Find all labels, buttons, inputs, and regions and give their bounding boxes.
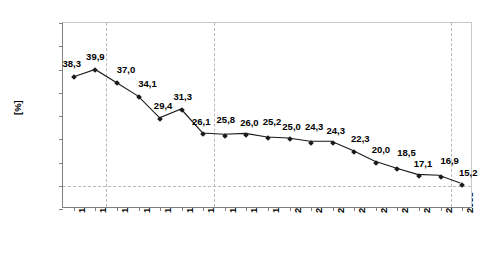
data-point-marker — [71, 75, 77, 81]
data-point-marker — [351, 149, 357, 155]
data-point-label: 16,9 — [440, 156, 459, 166]
data-point-label: 18,5 — [397, 149, 416, 159]
data-point-label: 29,4 — [154, 101, 173, 111]
data-point-marker — [157, 116, 163, 122]
data-point-label: 24,3 — [305, 122, 324, 132]
x-axis-tick-mark — [419, 207, 420, 211]
data-point-label: 37,0 — [117, 66, 136, 76]
x-axis-tick-mark — [139, 207, 140, 211]
data-point-label: 25,2 — [263, 118, 282, 128]
data-point-label: 17,1 — [414, 159, 433, 169]
data-point-label: 22,3 — [351, 134, 370, 144]
line-chart: [%] 10,015,020,025,030,035,040,045,050,0… — [0, 0, 486, 265]
x-axis-tick-mark — [462, 207, 463, 211]
data-point-marker — [395, 167, 401, 173]
data-point-label: 26,0 — [240, 118, 259, 128]
x-axis-tick-mark — [333, 207, 334, 211]
data-point-marker — [373, 160, 379, 166]
data-point-label: 15,2 — [459, 168, 478, 178]
x-axis-tick-mark — [95, 207, 96, 211]
data-point-label: 31,3 — [173, 92, 192, 102]
x-axis-tick-mark — [117, 207, 118, 211]
x-axis-tick-mark — [441, 207, 442, 211]
y-axis-tick-mark — [59, 209, 63, 210]
data-point-label: 38,3 — [63, 60, 82, 70]
x-axis-tick-mark — [246, 207, 247, 211]
x-axis-tick-mark — [203, 207, 204, 211]
data-point-marker — [244, 132, 250, 138]
x-axis-tick-mark — [268, 207, 269, 211]
x-axis-tick-mark — [354, 207, 355, 211]
data-point-layer: 38,339,937,034,129,431,326,125,826,025,2… — [63, 23, 471, 207]
data-point-label: 34,1 — [138, 79, 157, 89]
plot-area: 38,339,937,034,129,431,326,125,826,025,2… — [62, 22, 472, 208]
data-point-marker — [438, 174, 444, 180]
data-point-marker — [287, 136, 293, 142]
x-axis-tick-mark — [311, 207, 312, 211]
data-point-label: 20,0 — [372, 145, 391, 155]
data-point-marker — [308, 140, 314, 146]
data-point-marker — [265, 135, 271, 141]
data-point-marker — [179, 107, 185, 113]
data-point-marker — [459, 182, 465, 188]
x-axis-tick-mark — [376, 207, 377, 211]
data-point-marker — [114, 81, 120, 87]
x-axis-tick-mark — [290, 207, 291, 211]
x-axis-tick-mark — [397, 207, 398, 211]
data-point-label: 25,8 — [217, 115, 236, 125]
data-point-marker — [330, 140, 336, 146]
x-axis-tick-mark — [182, 207, 183, 211]
data-point-marker — [93, 67, 99, 73]
data-point-label: 24,3 — [326, 126, 345, 136]
data-point-marker — [222, 133, 228, 139]
data-point-marker — [416, 173, 422, 179]
x-axis-tick-mark — [74, 207, 75, 211]
x-axis-tick-mark — [160, 207, 161, 211]
y-axis-title: [%] — [12, 100, 23, 115]
data-point-label: 26,1 — [192, 117, 211, 127]
data-point-marker — [136, 94, 142, 100]
data-point-label: 25,0 — [282, 123, 301, 133]
data-point-marker — [200, 131, 206, 137]
x-axis-tick-mark — [225, 207, 226, 211]
data-point-label: 39,9 — [86, 52, 105, 62]
